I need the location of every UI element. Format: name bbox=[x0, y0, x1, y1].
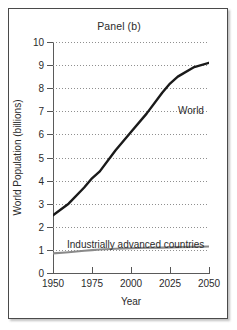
y-tick-label-10: 10 bbox=[33, 37, 44, 48]
figure-panel-b: Panel (b) World Population (billions) 10… bbox=[8, 8, 228, 319]
x-axis-line bbox=[53, 273, 210, 274]
x-tick-label-1950: 1950 bbox=[42, 278, 64, 289]
y-tick-label-1: 1 bbox=[38, 244, 44, 255]
x-tick-2050 bbox=[209, 267, 210, 273]
x-tick-label-2000: 2000 bbox=[120, 278, 142, 289]
y-tick-label-0: 0 bbox=[38, 268, 44, 279]
x-tick-label-1975: 1975 bbox=[81, 278, 103, 289]
series-label-industrial: Industrially advanced countries bbox=[67, 239, 204, 250]
y-tick-label-7: 7 bbox=[38, 106, 44, 117]
y-tick-label-5: 5 bbox=[38, 152, 44, 163]
y-tick-label-3: 3 bbox=[38, 198, 44, 209]
y-tick-label-2: 2 bbox=[38, 221, 44, 232]
series-line-world bbox=[53, 63, 209, 215]
y-tick-label-8: 8 bbox=[38, 83, 44, 94]
y-axis-title: World Population (billions) bbox=[11, 42, 25, 273]
x-axis-title: Year bbox=[53, 296, 209, 307]
y-tick-label-4: 4 bbox=[38, 175, 44, 186]
x-tick-label-2050: 2050 bbox=[198, 278, 220, 289]
y-tick-label-6: 6 bbox=[38, 129, 44, 140]
chart-title: Panel (b) bbox=[9, 20, 229, 32]
series-label-world: World bbox=[178, 105, 204, 116]
plot-area: 10 9 8 7 6 5 4 3 2 1 0 1950 19 bbox=[53, 42, 209, 273]
x-tick-label-2025: 2025 bbox=[159, 278, 181, 289]
y-tick-0 bbox=[47, 273, 53, 274]
y-tick-label-9: 9 bbox=[38, 60, 44, 71]
y-axis-title-text: World Population (billions) bbox=[13, 100, 24, 216]
